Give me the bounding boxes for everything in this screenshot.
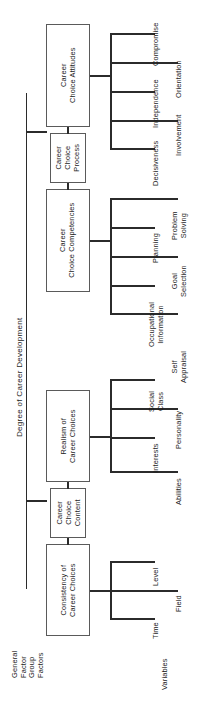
leaf-line-occupational-information bbox=[110, 285, 155, 287]
leaf-label-level: Level bbox=[151, 568, 160, 586]
leaf-line-interests bbox=[110, 437, 155, 439]
leaf-label-time: Time bbox=[151, 622, 160, 639]
leaf-label-field: Field bbox=[174, 595, 183, 612]
leaf-label-decisiveness: Decisiveness bbox=[151, 141, 160, 186]
node-career-choice-process[interactable]: Career Choice Process bbox=[50, 133, 86, 183]
leaf-line-planning bbox=[110, 227, 155, 229]
leaf-label-compromise: Compromise bbox=[151, 23, 160, 66]
leaf-line-field bbox=[110, 590, 178, 592]
node-consistency-of-career-choices[interactable]: Consistency of Career Choices bbox=[46, 544, 90, 636]
leaf-label-orientation: Orientation bbox=[174, 60, 183, 98]
node-realism-of-career-choices[interactable]: Realism of Career Choices bbox=[46, 390, 90, 482]
leaf-label-planning: Planning bbox=[151, 233, 160, 263]
leaf-label-involvement: Involvement bbox=[174, 115, 183, 157]
leaf-label-social-class: Social Class bbox=[147, 391, 165, 412]
leaf-line-self-appraisal bbox=[110, 313, 178, 315]
leaf-line-involvement bbox=[110, 120, 178, 122]
career-development-diagram: Degree of Career Development General Fac… bbox=[0, 0, 222, 712]
stem-consistency-of-career-choices bbox=[90, 590, 111, 592]
tier-label-variables: Variables bbox=[160, 658, 169, 690]
stem-realism-of-career-choices bbox=[90, 436, 111, 438]
node-label: Career Choice Content bbox=[54, 500, 82, 527]
node-career-choice-content[interactable]: Career Choice Content bbox=[50, 488, 86, 538]
leaf-label-goal-selection: Goal Selection bbox=[170, 265, 188, 297]
trunk-branch-upper bbox=[26, 131, 47, 133]
leaf-line-social-class bbox=[110, 379, 155, 381]
node-label: Career Choice Process bbox=[54, 144, 82, 172]
leaf-line-independence bbox=[110, 91, 155, 93]
leaf-label-self-appraisal: Self Appraisal bbox=[170, 351, 188, 383]
leaf-label-interests: Interests bbox=[151, 443, 160, 473]
leaf-line-time bbox=[110, 618, 155, 620]
connector-realism-content bbox=[67, 482, 69, 489]
leaf-label-occupational-information: Occupational Information bbox=[147, 302, 165, 347]
tier-label-group-factors: Group Factors bbox=[27, 652, 45, 678]
node-career-choice-competencies[interactable]: Career Choice Competencies bbox=[46, 189, 90, 292]
leaf-label-abilities: Abilities bbox=[174, 478, 183, 505]
node-label: Consistency of Career Choices bbox=[59, 563, 77, 616]
leaf-line-decisiveness bbox=[110, 148, 155, 150]
node-label: Realism of Career Choices bbox=[59, 409, 77, 462]
node-label: Career Choice Attitudes bbox=[59, 48, 77, 104]
trunk-branch-lower bbox=[26, 500, 47, 502]
root-trunk-line bbox=[26, 93, 28, 589]
tier-label-general-factor: General Factor bbox=[10, 651, 28, 678]
root-label: Degree of Career Development bbox=[15, 317, 24, 437]
leaf-line-level bbox=[110, 561, 155, 563]
leaf-label-independence: Independence bbox=[151, 79, 160, 128]
stem-career-choice-competencies bbox=[90, 240, 111, 242]
leaf-label-problem-solving: Problem Solving bbox=[170, 211, 188, 240]
node-career-choice-attitudes[interactable]: Career Choice Attitudes bbox=[46, 24, 90, 127]
connector-process-competencies bbox=[67, 183, 69, 190]
connector-content-consistency bbox=[67, 538, 69, 545]
leaf-line-goal-selection bbox=[110, 256, 178, 258]
leaf-label-personality: Personality bbox=[174, 411, 183, 449]
connector-attitudes-process bbox=[67, 127, 69, 134]
node-label: Career Choice Competencies bbox=[59, 203, 77, 278]
leaf-line-personality bbox=[110, 408, 178, 410]
stem-career-choice-attitudes bbox=[90, 75, 111, 77]
bracket-spine-realism bbox=[110, 379, 112, 473]
leaf-line-compromise bbox=[110, 33, 155, 35]
leaf-line-orientation bbox=[110, 62, 178, 64]
leaf-line-abilities bbox=[110, 471, 178, 473]
leaf-line-problem-solving bbox=[110, 198, 178, 200]
